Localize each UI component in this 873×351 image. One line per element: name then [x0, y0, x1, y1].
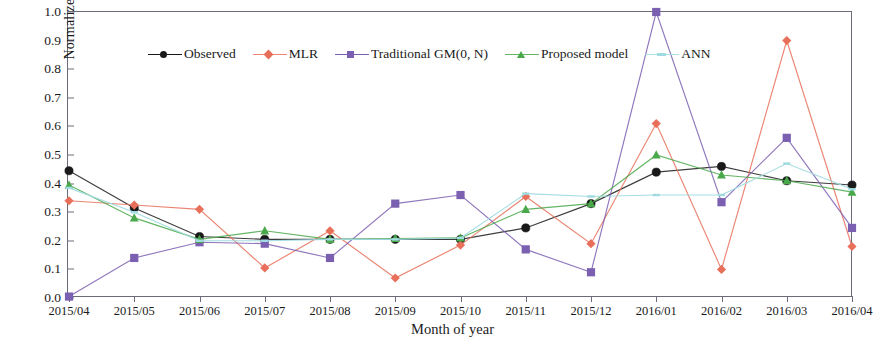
chart-legend: ObservedMLRTraditional GM(0, N)Proposed …	[148, 46, 711, 62]
legend-swatch-icon	[645, 48, 679, 61]
data-point	[260, 226, 269, 234]
data-point	[326, 254, 334, 262]
legend-label: Observed	[184, 46, 236, 62]
y-tick-label: 0.3	[44, 204, 61, 220]
data-point	[65, 167, 73, 175]
y-tick-label: 1.0	[44, 4, 61, 20]
x-tick-label: 2016/03	[766, 304, 807, 319]
x-tick-label: 2015/12	[571, 304, 612, 319]
y-tick-label: 0.1	[44, 261, 61, 277]
x-tick-label: 2015/05	[114, 304, 155, 319]
x-tick-label: 2015/04	[49, 304, 90, 319]
x-tick-label: 2015/11	[505, 304, 546, 319]
legend-swatch-icon	[335, 48, 369, 61]
legend-label: Traditional GM(0, N)	[371, 46, 488, 62]
legend-marker-icon	[263, 50, 273, 60]
data-point	[717, 198, 725, 206]
data-point	[718, 194, 725, 196]
x-tick-label: 2015/08	[310, 304, 351, 319]
data-point	[587, 195, 594, 197]
legend-marker-icon	[517, 51, 525, 58]
data-point	[848, 224, 856, 232]
legend-label: MLR	[289, 46, 318, 62]
legend-swatch-icon	[148, 48, 182, 61]
data-point	[717, 162, 725, 170]
data-point	[326, 238, 333, 240]
data-point	[522, 245, 530, 253]
legend-label: Proposed model	[541, 46, 628, 62]
y-tick-label: 0.6	[44, 118, 61, 134]
data-point	[783, 134, 791, 142]
x-axis-title: Month of year	[0, 321, 865, 338]
x-tick-label: 2015/10	[440, 304, 481, 319]
series-observed	[65, 162, 856, 243]
legend-marker-icon	[657, 53, 666, 56]
y-tick-label: 0.8	[44, 61, 61, 77]
x-tick-label: 2015/09	[375, 304, 416, 319]
y-tick-label: 0.2	[44, 233, 61, 249]
x-axis-title-text: Month of year	[411, 321, 494, 337]
x-tick-label: 2016/01	[636, 304, 677, 319]
data-point	[261, 240, 268, 242]
data-point	[522, 224, 530, 232]
y-tick-label: 0.9	[44, 33, 61, 49]
legend-marker-icon	[160, 51, 167, 58]
x-tick-label: 2016/04	[832, 304, 873, 319]
data-point	[65, 187, 72, 189]
legend-marker-icon	[347, 51, 354, 58]
legend-swatch-icon	[505, 48, 539, 61]
data-point	[456, 191, 464, 199]
data-point	[782, 36, 791, 45]
data-point	[391, 200, 399, 208]
x-tick-label: 2016/02	[701, 304, 742, 319]
data-point	[522, 192, 529, 194]
y-tick-label: 0.7	[44, 90, 61, 106]
plot-area: Normalized value 0.00.10.20.30.40.50.60.…	[67, 11, 852, 297]
data-point	[587, 268, 595, 276]
data-point	[652, 8, 660, 16]
data-point	[847, 242, 856, 251]
data-point	[391, 273, 400, 282]
x-tick-label: 2015/07	[244, 304, 285, 319]
data-point	[130, 254, 138, 262]
data-point	[652, 168, 660, 176]
data-point	[131, 211, 138, 213]
x-tick-label: 2015/06	[179, 304, 220, 319]
data-point	[717, 265, 726, 274]
data-point	[130, 213, 139, 221]
data-point	[325, 226, 334, 235]
legend-item-observed[interactable]: Observed	[148, 46, 236, 62]
data-point	[392, 238, 399, 240]
data-point	[65, 292, 73, 300]
y-tick-label: 0.5	[44, 147, 61, 163]
y-tick-label: 0.4	[44, 176, 61, 192]
legend-item-traditional-gm-0-n[interactable]: Traditional GM(0, N)	[335, 46, 488, 62]
data-point	[652, 119, 661, 128]
data-point	[586, 239, 595, 248]
legend-label: ANN	[681, 46, 710, 62]
legend-item-proposed-model[interactable]: Proposed model	[505, 46, 628, 62]
legend-item-ann[interactable]: ANN	[645, 46, 710, 62]
data-point	[196, 240, 203, 242]
data-point	[64, 196, 73, 205]
data-point	[652, 150, 661, 158]
legend-swatch-icon	[253, 48, 287, 61]
data-point	[848, 188, 855, 190]
data-point	[457, 237, 464, 239]
data-point	[783, 162, 790, 164]
legend-item-mlr[interactable]: MLR	[253, 46, 318, 62]
data-point	[653, 194, 660, 196]
